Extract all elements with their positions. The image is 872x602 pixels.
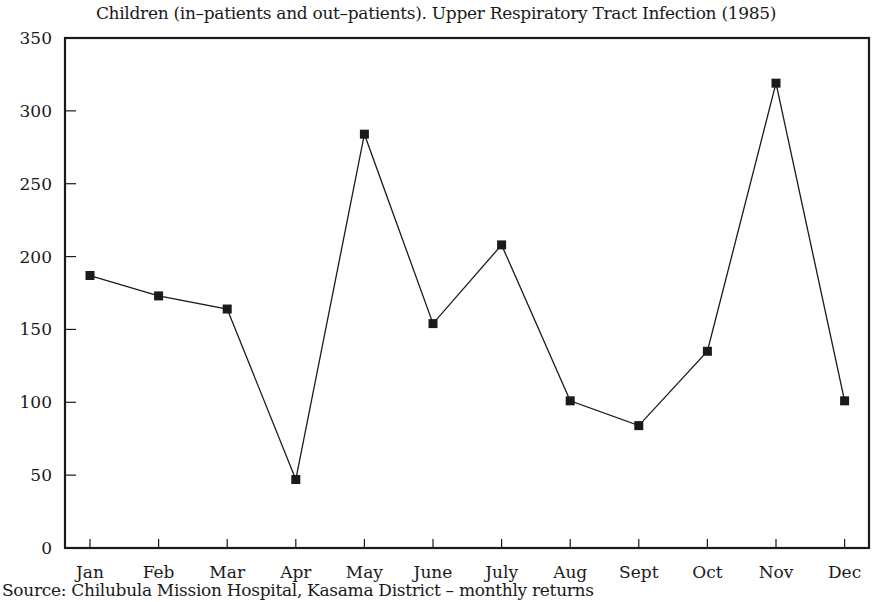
x-tick-label: Dec bbox=[828, 562, 861, 582]
data-point bbox=[497, 240, 506, 249]
y-tick-label: 150 bbox=[20, 319, 52, 339]
data-line bbox=[90, 83, 845, 479]
y-tick-label: 300 bbox=[20, 101, 52, 121]
data-point bbox=[223, 305, 232, 314]
y-tick-label: 350 bbox=[20, 28, 52, 48]
data-point bbox=[291, 475, 300, 484]
data-point bbox=[360, 130, 369, 139]
x-tick-label: Jan bbox=[74, 562, 104, 582]
y-tick-label: 250 bbox=[20, 174, 52, 194]
x-tick-label: June bbox=[412, 562, 453, 582]
data-point bbox=[154, 291, 163, 300]
x-tick-label: Aug bbox=[552, 562, 587, 582]
data-point bbox=[634, 421, 643, 430]
x-tick-label: Feb bbox=[143, 562, 175, 582]
data-point bbox=[840, 396, 849, 405]
x-tick-label: Mar bbox=[209, 562, 246, 582]
source-note: Source: Chilubula Mission Hospital, Kasa… bbox=[2, 580, 594, 600]
series-line bbox=[90, 83, 845, 479]
x-tick-label: May bbox=[346, 562, 384, 582]
x-tick-label: July bbox=[483, 562, 518, 582]
y-tick-label: 100 bbox=[20, 392, 52, 412]
y-tick-label: 50 bbox=[30, 465, 52, 485]
y-tick-label: 200 bbox=[20, 247, 52, 267]
x-tick-label: Apr bbox=[279, 562, 312, 582]
x-tick-label: Oct bbox=[692, 562, 722, 582]
x-tick-label: Nov bbox=[759, 562, 794, 582]
data-point bbox=[429, 319, 438, 328]
x-tick-label: Sept bbox=[619, 562, 659, 582]
data-point bbox=[86, 271, 95, 280]
series-markers bbox=[86, 79, 850, 484]
data-point bbox=[772, 79, 781, 88]
y-tick-label: 0 bbox=[41, 538, 52, 558]
x-axis: JanFebMarAprMayJuneJulyAugSeptOctNovDec bbox=[74, 539, 861, 582]
y-axis: 050100150200250300350 bbox=[20, 28, 76, 558]
data-point bbox=[566, 396, 575, 405]
plot-frame bbox=[65, 38, 869, 548]
plot-border bbox=[65, 38, 869, 548]
line-chart: 050100150200250300350 JanFebMarAprMayJun… bbox=[0, 0, 872, 602]
data-point bbox=[703, 347, 712, 356]
